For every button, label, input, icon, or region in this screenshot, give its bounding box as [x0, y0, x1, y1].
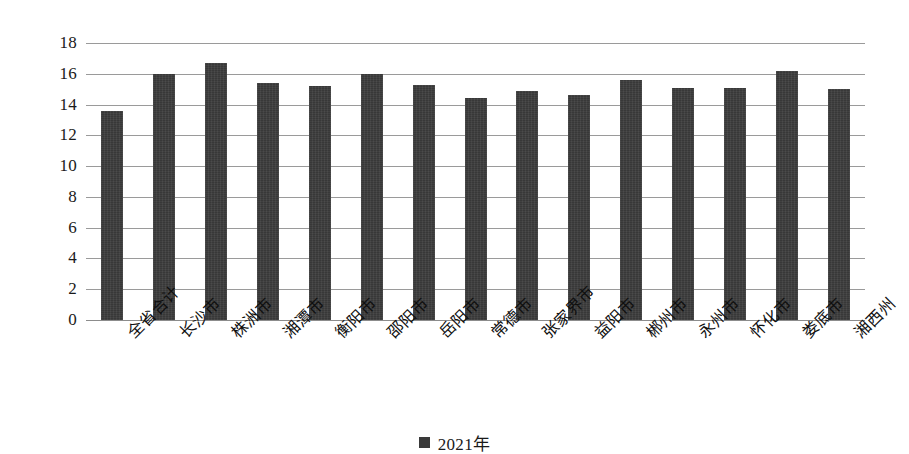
x-axis-label: 长沙市: [173, 326, 190, 343]
plot-area: 181614121086420: [86, 43, 865, 320]
bar: [361, 74, 383, 320]
y-axis-tick-label: 16: [60, 64, 77, 84]
x-axis-label: 湘西州: [848, 326, 865, 343]
y-axis-tick-label: 4: [68, 248, 77, 268]
bar: [620, 80, 642, 320]
x-axis-label: 益阳市: [588, 326, 605, 343]
bars-layer: [86, 43, 865, 320]
bar: [413, 85, 435, 320]
bar: [309, 86, 331, 320]
bar: [828, 89, 850, 320]
bar: [205, 63, 227, 320]
bar: [465, 98, 487, 320]
bar: [776, 71, 798, 320]
y-axis-tick-label: 12: [60, 125, 77, 145]
y-axis-tick-label: 2: [68, 279, 77, 299]
x-axis-label: 岳阳市: [433, 326, 450, 343]
legend-swatch-icon: [419, 437, 430, 448]
y-axis-tick-label: 0: [68, 310, 77, 330]
x-axis-label: 娄底市: [796, 326, 813, 343]
bar: [257, 83, 279, 320]
x-axis-label: 邵阳市: [381, 326, 398, 343]
x-axis-label: 全省合计: [121, 326, 138, 343]
x-axis-label: 张家界市: [536, 326, 553, 343]
y-axis-tick-label: 8: [68, 187, 77, 207]
x-axis-labels: 全省合计长沙市株洲市湘潭市衡阳市邵阳市岳阳市常德市张家界市益阳市郴州市永州市怀化…: [86, 322, 865, 422]
x-axis-label: 常德市: [485, 326, 502, 343]
chart-legend: 2021年: [0, 430, 909, 454]
x-axis-label: 郴州市: [640, 326, 657, 343]
y-axis-tick-label: 18: [60, 33, 77, 53]
y-axis-tick-label: 10: [60, 156, 77, 176]
legend-label: 2021年: [438, 430, 491, 454]
y-axis-tick-label: 14: [60, 95, 77, 115]
bar-chart: 181614121086420 全省合计长沙市株洲市湘潭市衡阳市邵阳市岳阳市常德…: [0, 0, 909, 454]
bar: [516, 91, 538, 320]
x-axis-label: 株洲市: [225, 326, 242, 343]
y-axis-tick-label: 6: [68, 218, 77, 238]
x-axis-label: 永州市: [692, 326, 709, 343]
x-axis-label: 衡阳市: [329, 326, 346, 343]
bar: [672, 88, 694, 320]
x-axis-label: 怀化市: [744, 326, 761, 343]
x-axis-label: 湘潭市: [277, 326, 294, 343]
bar: [724, 88, 746, 320]
bar: [101, 111, 123, 320]
